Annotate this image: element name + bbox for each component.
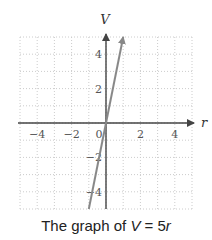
caption-var-r: r: [166, 217, 171, 234]
caption-var-v: V: [130, 217, 140, 234]
x-tick-label: 4: [171, 128, 178, 141]
caption-equals: = 5: [140, 217, 165, 234]
x-tick-label: 0: [96, 128, 103, 141]
y-tick-label: 2: [95, 83, 102, 96]
y-tick-label: 4: [95, 48, 102, 61]
caption-prefix: The graph of: [41, 217, 130, 234]
figure-caption: The graph of V = 5r: [0, 217, 212, 234]
x-tick-label: −4: [29, 128, 45, 141]
x-tick-label: −2: [63, 128, 79, 141]
x-axis-label: r: [201, 115, 208, 130]
x-tick-label: 2: [137, 128, 144, 141]
graph-chart: −4−2024−4−224 r V: [0, 0, 212, 215]
y-axis-label: V: [100, 12, 111, 27]
